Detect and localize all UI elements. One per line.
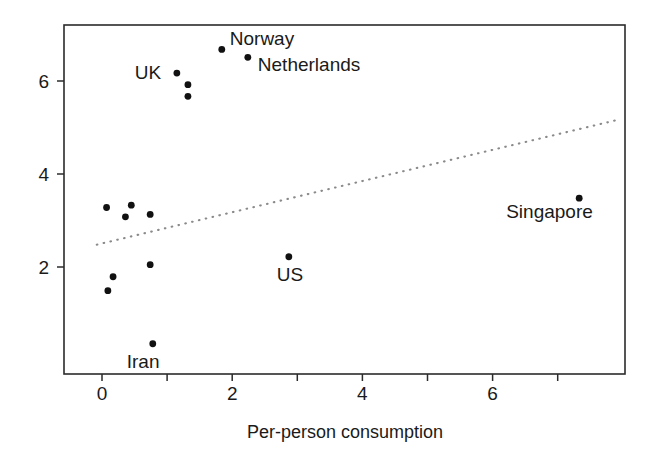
y-axis-ticks [57, 81, 64, 267]
x-tick-label: 2 [227, 383, 238, 404]
x-tick-label: 0 [97, 383, 108, 404]
data-point [244, 54, 251, 61]
y-tick-label: 6 [38, 71, 49, 92]
data-point-label: UK [135, 62, 162, 83]
data-point-label-layer: NorwayNetherlandsUKSingaporeUSIran [127, 28, 593, 371]
data-point-layer [103, 46, 582, 347]
y-tick-label: 2 [38, 257, 49, 278]
data-point [149, 340, 156, 347]
data-point [128, 202, 135, 209]
y-axis-tick-labels: 246 [38, 71, 49, 278]
data-point [147, 261, 154, 268]
data-point [218, 46, 225, 53]
data-point [147, 211, 154, 218]
data-point-label: Netherlands [258, 54, 360, 75]
data-point [185, 93, 192, 100]
figure-container: 0246 246 NorwayNetherlandsUKSingaporeUSI… [0, 0, 645, 472]
x-tick-label: 6 [487, 383, 498, 404]
data-point [122, 213, 129, 220]
x-axis-title: Per-person consumption [247, 422, 443, 442]
data-point [185, 81, 192, 88]
scatter-plot: 0246 246 NorwayNetherlandsUKSingaporeUSI… [0, 0, 645, 472]
data-point-label: Iran [127, 351, 160, 372]
data-point-label: Norway [230, 28, 295, 49]
y-tick-label: 4 [38, 164, 49, 185]
data-point-label: US [277, 264, 303, 285]
x-axis-tick-labels: 0246 [97, 383, 498, 404]
x-axis-ticks [102, 374, 558, 381]
regression-fit-line [97, 121, 615, 245]
data-point [104, 287, 111, 294]
data-point [173, 70, 180, 77]
data-point [103, 204, 110, 211]
data-point-label: Singapore [506, 201, 593, 222]
data-point [285, 253, 292, 260]
data-point [110, 273, 117, 280]
x-tick-label: 4 [357, 383, 368, 404]
